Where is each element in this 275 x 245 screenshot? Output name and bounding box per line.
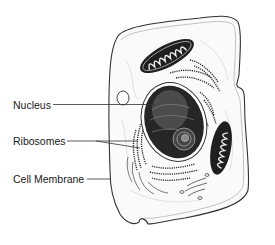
label-nucleus: Nucleus (13, 99, 51, 111)
cell-diagram (0, 0, 275, 245)
nucleolus (173, 128, 195, 150)
label-ribosomes: Ribosomes (13, 135, 66, 147)
label-cell-membrane: Cell Membrane (13, 173, 84, 185)
vacuole (117, 91, 129, 105)
